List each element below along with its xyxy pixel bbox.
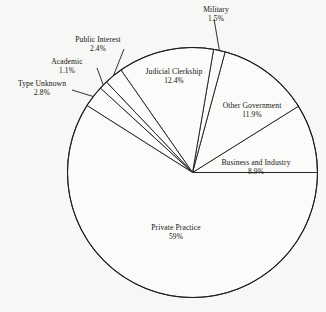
leader-line — [214, 19, 219, 50]
slice-label-name: Military — [203, 5, 229, 14]
slice-label-value: 12.4% — [164, 76, 184, 85]
pie-chart: Business and Industry8.9%Other Governmen… — [0, 0, 326, 312]
slice-label-name: Type Unknown — [18, 79, 66, 88]
slice-label-name: Judicial Clerkship — [146, 67, 203, 76]
slice-label-value: 11.9% — [242, 110, 261, 119]
slice-label-name: Academic — [51, 57, 83, 66]
slice-label: Military1.5% — [203, 5, 229, 23]
leader-line — [72, 90, 93, 97]
slice-label-value: 8.9% — [248, 167, 264, 176]
leader-line — [97, 68, 103, 85]
slice-label-name: Private Practice — [151, 223, 201, 232]
slice-label-value: 2.4% — [90, 44, 106, 53]
slice-label: Public Interest2.4% — [75, 35, 121, 53]
slice-label-name: Other Government — [223, 101, 283, 110]
slice-label: Type Unknown2.8% — [18, 79, 66, 97]
slice-label-name: Public Interest — [75, 35, 121, 44]
slice-label: Academic1.1% — [51, 57, 83, 75]
slice-label-value: 2.8% — [34, 88, 50, 97]
slice-label-value: 59% — [169, 232, 183, 241]
slice-label-value: 1.1% — [59, 66, 75, 75]
slice-label-name: Business and Industry — [221, 158, 290, 167]
slice-label-value: 1.5% — [208, 14, 224, 23]
pie-chart-svg: Business and Industry8.9%Other Governmen… — [0, 0, 326, 312]
pie-wedge-group — [68, 47, 318, 297]
